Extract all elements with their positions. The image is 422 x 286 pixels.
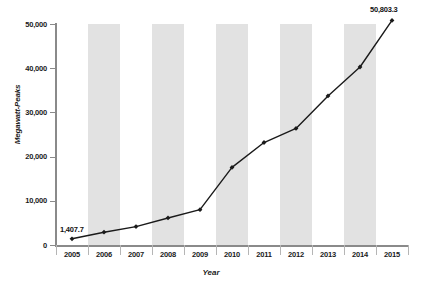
y-axis-line: [55, 23, 57, 245]
x-axis-tick-label: 2010: [216, 250, 248, 259]
background-band: [344, 24, 376, 245]
y-axis-tick-label: 20,000: [1, 152, 47, 161]
y-axis-tick-label: 0: [1, 241, 47, 250]
plot-area: [56, 24, 408, 245]
background-band: [88, 24, 120, 245]
chart-container: Megawatt-Peaks Year 010,00020,00030,0004…: [0, 0, 422, 286]
x-axis-tick: [408, 245, 409, 255]
y-axis-tick: [50, 157, 56, 158]
y-axis-tick: [50, 201, 56, 202]
y-axis-tick: [50, 112, 56, 113]
x-axis-tick-label: 2012: [280, 250, 312, 259]
x-axis-line: [55, 245, 408, 247]
y-axis-tick: [50, 24, 56, 25]
background-band: [152, 24, 184, 245]
background-band: [280, 24, 312, 245]
x-axis-tick-label: 2005: [56, 250, 88, 259]
x-axis-tick-label: 2008: [152, 250, 184, 259]
x-axis-tick-label: 2015: [376, 250, 408, 259]
y-axis-tick-label: 50,000: [1, 20, 47, 29]
x-axis-tick-label: 2013: [312, 250, 344, 259]
x-axis-tick-label: 2007: [120, 250, 152, 259]
data-point-label: 1,407.7: [60, 225, 84, 234]
x-axis-tick-label: 2006: [88, 250, 120, 259]
background-band: [216, 24, 248, 245]
data-point-label: 50,803.3: [370, 5, 398, 14]
x-axis-tick-label: 2009: [184, 250, 216, 259]
y-axis-tick: [50, 68, 56, 69]
y-axis-tick-label: 30,000: [1, 108, 47, 117]
data-point-marker: [390, 18, 395, 23]
x-axis-tick-label: 2014: [344, 250, 376, 259]
y-axis-tick-label: 40,000: [1, 64, 47, 73]
y-axis-tick-label: 10,000: [1, 196, 47, 205]
x-axis-title: Year: [0, 268, 422, 277]
x-axis-tick-label: 2011: [248, 250, 280, 259]
